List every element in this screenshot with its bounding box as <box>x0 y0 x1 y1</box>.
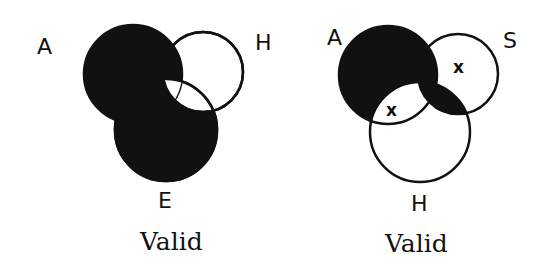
venn-right: A S H x x Valid <box>0 0 549 271</box>
shaded-area <box>0 0 549 271</box>
caption-right: Valid <box>384 229 448 258</box>
venn-diagrams-canvas: A H E x Valid A S H x x Valid <box>0 0 549 271</box>
label-h: H <box>411 191 428 216</box>
x-mark-ah: x <box>386 100 397 120</box>
label-s: S <box>503 28 517 53</box>
x-mark-s: x <box>453 57 464 77</box>
label-a: A <box>327 25 342 50</box>
